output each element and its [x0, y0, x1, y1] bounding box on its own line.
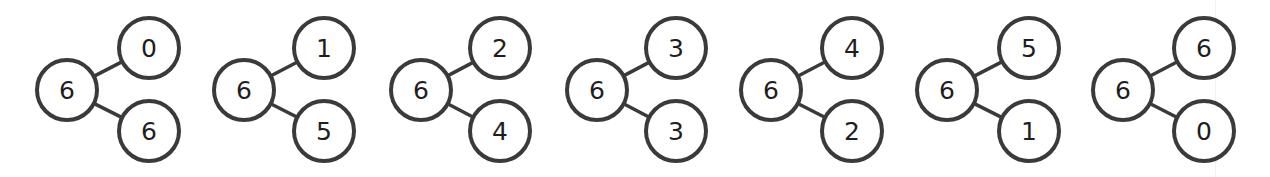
part-top-circle: 1 [292, 16, 356, 80]
part-top-circle: 2 [468, 16, 532, 80]
part-bottom-circle: 4 [468, 99, 532, 163]
part-top-circle: 4 [820, 16, 884, 80]
part-top-circle: 0 [117, 16, 181, 80]
part-bottom-circle: 3 [644, 99, 708, 163]
part-bottom-circle: 0 [1172, 99, 1236, 163]
whole-circle: 6 [35, 58, 99, 122]
part-top-circle: 3 [644, 16, 708, 80]
whole-circle: 6 [739, 58, 803, 122]
connector-lines [0, 0, 1270, 177]
whole-circle: 6 [1091, 58, 1155, 122]
whole-circle: 6 [565, 58, 629, 122]
whole-circle: 6 [389, 58, 453, 122]
whole-circle: 6 [915, 58, 979, 122]
part-bottom-circle: 1 [997, 99, 1061, 163]
part-bottom-circle: 6 [117, 99, 181, 163]
whole-circle: 6 [212, 58, 276, 122]
part-bottom-circle: 2 [820, 99, 884, 163]
part-bottom-circle: 5 [292, 99, 356, 163]
number-bond-diagram: 6 0 6 6 1 5 6 2 4 6 3 3 6 4 2 6 5 1 6 6 … [0, 0, 1270, 177]
part-top-circle: 6 [1172, 16, 1236, 80]
part-top-circle: 5 [997, 16, 1061, 80]
